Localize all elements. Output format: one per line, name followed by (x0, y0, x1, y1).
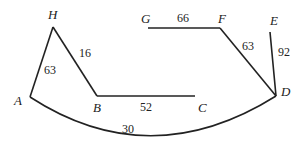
edge-weight-H-B: 16 (79, 47, 91, 59)
node-label-G: G (141, 12, 150, 25)
edge-E-D (270, 32, 276, 96)
edge-A-D-arc (30, 96, 276, 136)
edge-weight-E-D: 92 (278, 46, 290, 58)
edge-weight-G-F: 66 (177, 12, 189, 24)
node-label-B: B (93, 101, 101, 114)
node-label-C: C (198, 101, 207, 114)
edge-weight-B-C: 52 (140, 101, 152, 113)
graph-diagram: H A B C G F E D 63 16 52 66 63 92 30 (0, 0, 305, 150)
node-label-D: D (281, 85, 290, 98)
edge-weight-F-D: 63 (242, 40, 254, 52)
node-label-H: H (48, 8, 57, 21)
node-label-A: A (14, 94, 22, 107)
edge-H-B (53, 27, 97, 96)
node-label-E: E (270, 14, 278, 27)
edge-weight-A-D: 30 (122, 123, 134, 135)
edge-A-H (30, 27, 53, 97)
edge-weight-A-H: 63 (44, 64, 56, 76)
node-label-F: F (218, 12, 226, 25)
